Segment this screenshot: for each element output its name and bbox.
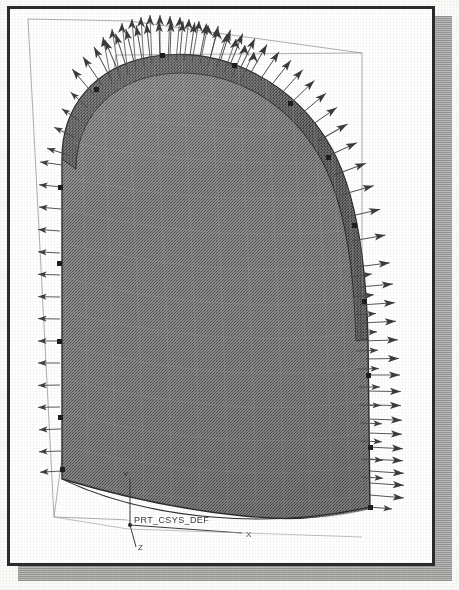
csys-axis-label-x: X	[246, 530, 252, 539]
csys-axis-z	[130, 525, 136, 547]
csys-axis-label-y: Y	[123, 470, 129, 479]
cad-viewport[interactable]: PRT_CSYS_DEF Z Y X	[10, 9, 432, 563]
model-canvas[interactable]: PRT_CSYS_DEF Z Y X	[10, 9, 432, 563]
csys-axis-label-z: Z	[138, 543, 143, 552]
figure-frame: PRT_CSYS_DEF Z Y X	[7, 6, 435, 566]
pressure-arrows-left[interactable]	[38, 159, 63, 475]
csys-label: PRT_CSYS_DEF	[134, 515, 209, 525]
csys-origin	[128, 523, 132, 527]
